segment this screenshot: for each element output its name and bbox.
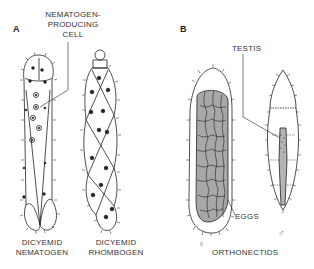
female-symbol-icon: ♀ xyxy=(198,239,205,249)
orthonectid-female-drawing xyxy=(186,64,235,236)
orthonectid-male-drawing xyxy=(265,70,301,213)
male-symbol-icon: ♂ xyxy=(278,228,285,238)
illustration xyxy=(0,0,314,269)
dicyemid-rhombogen-drawing xyxy=(80,50,121,234)
caption-orthonectids: ORTHONECTIDS xyxy=(212,248,278,258)
dicyemid-nematogen-drawing xyxy=(20,52,60,234)
